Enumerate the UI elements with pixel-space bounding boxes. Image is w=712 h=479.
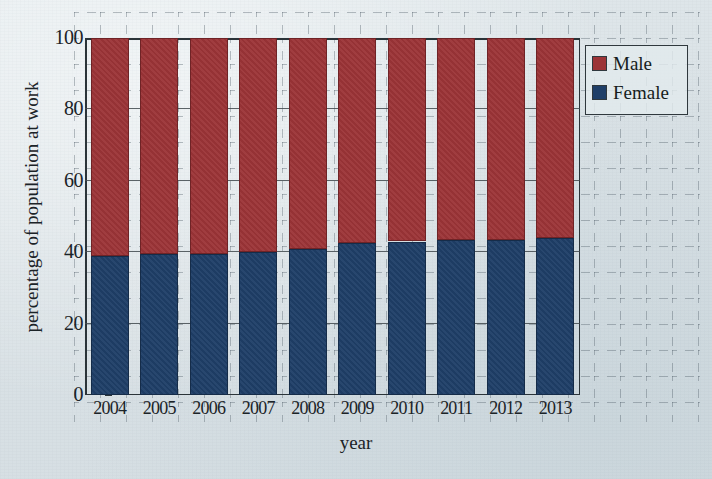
bar-2010 bbox=[388, 38, 426, 395]
bar-2008 bbox=[289, 38, 327, 395]
y-tick-label-20: 20 bbox=[64, 313, 83, 333]
y-tick-label-0: 0 bbox=[74, 384, 84, 404]
plot-area bbox=[85, 38, 580, 395]
y-axis-line bbox=[85, 38, 87, 395]
x-tick-label-2007: 2007 bbox=[234, 398, 284, 419]
y-tick-mark-0 bbox=[105, 395, 112, 396]
y-axis-label: percentage of population at work bbox=[21, 27, 43, 387]
legend-label-male: Male bbox=[613, 54, 652, 73]
legend-swatch-male-icon bbox=[592, 56, 607, 71]
bar-2012 bbox=[487, 38, 525, 395]
y-tick-label-100: 100 bbox=[55, 27, 84, 47]
x-axis-label: year bbox=[0, 432, 712, 454]
bar-segment-male-2006 bbox=[190, 38, 228, 254]
bar-segment-female-2009 bbox=[338, 243, 376, 395]
bar-2004 bbox=[91, 38, 129, 395]
legend-entry-female: Female bbox=[592, 83, 669, 102]
bar-2011 bbox=[437, 38, 475, 395]
legend-label-female: Female bbox=[613, 83, 669, 102]
bar-segment-female-2004 bbox=[91, 256, 129, 395]
bar-segment-female-2008 bbox=[289, 249, 327, 395]
x-tick-label-2008: 2008 bbox=[283, 398, 333, 419]
x-tick-label-2013: 2013 bbox=[531, 398, 581, 419]
x-tick-label-2006: 2006 bbox=[184, 398, 234, 419]
x-tick-label-2004: 2004 bbox=[85, 398, 135, 419]
bar-segment-female-2012 bbox=[487, 240, 525, 395]
x-tick-label-2011: 2011 bbox=[432, 398, 482, 419]
bar-segment-male-2011 bbox=[437, 38, 475, 240]
bar-2013 bbox=[536, 38, 574, 395]
x-tick-label-2012: 2012 bbox=[481, 398, 531, 419]
bar-segment-male-2013 bbox=[536, 38, 574, 238]
bar-segment-male-2008 bbox=[289, 38, 327, 249]
x-tick-label-2005: 2005 bbox=[135, 398, 185, 419]
bar-segment-male-2004 bbox=[91, 38, 129, 256]
y-tick-label-40: 40 bbox=[64, 241, 83, 261]
bar-segment-female-2011 bbox=[437, 240, 475, 395]
bar-2009 bbox=[338, 38, 376, 395]
x-tick-label-2009: 2009 bbox=[333, 398, 383, 419]
bar-segment-female-2006 bbox=[190, 254, 228, 395]
y-tick-label-80: 80 bbox=[64, 98, 83, 118]
x-tick-label-2010: 2010 bbox=[382, 398, 432, 419]
bar-segment-male-2005 bbox=[140, 38, 178, 254]
plot-right-line bbox=[579, 38, 581, 395]
bar-segment-male-2007 bbox=[239, 38, 277, 252]
legend: Male Female bbox=[585, 45, 688, 115]
bar-segment-male-2012 bbox=[487, 38, 525, 240]
bar-segment-female-2013 bbox=[536, 238, 574, 395]
bar-2005 bbox=[140, 38, 178, 395]
y-tick-label-60: 60 bbox=[64, 170, 83, 190]
legend-swatch-female-icon bbox=[592, 85, 607, 100]
bar-2006 bbox=[190, 38, 228, 395]
bar-segment-female-2005 bbox=[140, 254, 178, 395]
bar-segment-female-2010 bbox=[388, 242, 426, 396]
chart-page: 020406080100 200420052006200720082009201… bbox=[0, 0, 712, 479]
legend-entry-male: Male bbox=[592, 54, 652, 73]
bar-2007 bbox=[239, 38, 277, 395]
bar-segment-female-2007 bbox=[239, 252, 277, 395]
bar-segment-male-2009 bbox=[338, 38, 376, 243]
bar-segment-male-2010 bbox=[388, 38, 426, 241]
